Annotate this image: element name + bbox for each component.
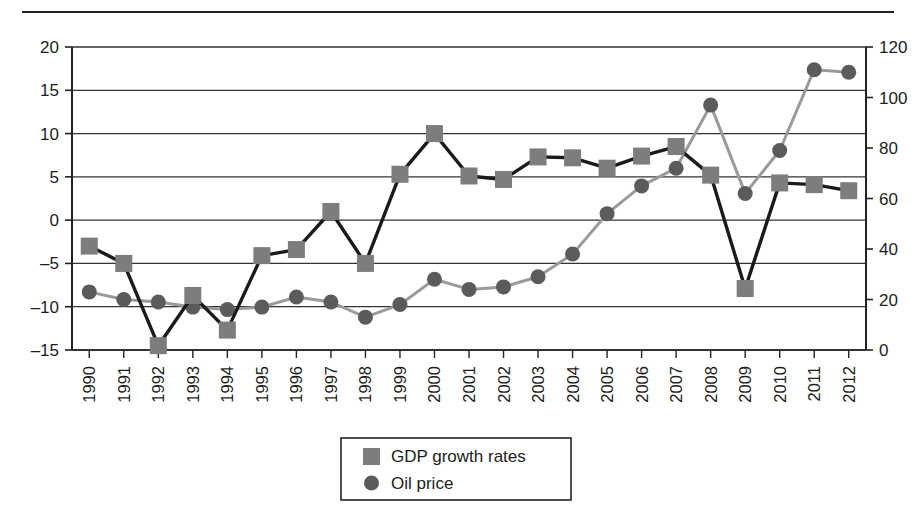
data-point-marker (391, 166, 408, 183)
data-point-marker (772, 143, 787, 158)
chart-legend: GDP growth ratesOil price (341, 438, 571, 500)
legend-marker-oil-price (364, 476, 379, 491)
data-point-marker (564, 149, 581, 166)
data-point-marker (253, 247, 270, 264)
data-point-marker (703, 98, 718, 113)
data-point-marker (807, 62, 822, 77)
data-point-marker (771, 174, 788, 191)
x-axis-tick-label: 2002 (495, 366, 513, 403)
data-point-marker (116, 292, 131, 307)
data-point-marker (219, 322, 236, 339)
x-axis-tick-label: 1996 (287, 366, 305, 403)
data-point-marker (288, 241, 305, 258)
x-axis-tick-label: 2011 (805, 366, 823, 401)
x-axis-tick-label: 1998 (356, 366, 374, 403)
x-axis-tick-label: 2008 (702, 366, 720, 403)
legend-label: Oil price (391, 474, 453, 493)
data-point-marker (358, 310, 373, 325)
x-axis-tick-label: 1999 (391, 366, 409, 403)
data-point-marker (496, 279, 511, 294)
data-point-marker (426, 125, 443, 142)
data-point-marker (392, 297, 407, 312)
figure-container: –15–10–505101520 020406080100120 1990199… (0, 0, 918, 513)
right-axis-tick-label: 40 (879, 240, 898, 259)
left-axis: –15–10–505101520 (31, 38, 72, 360)
legend-marker-gdp-growth-rates (363, 448, 380, 465)
data-point-marker (738, 186, 753, 201)
data-point-marker (184, 287, 201, 304)
left-axis-tick-label: 0 (50, 211, 59, 230)
data-point-marker (461, 167, 478, 184)
right-axis-tick-label: 0 (879, 341, 888, 360)
x-axis-tick-label: 1997 (322, 366, 340, 403)
data-point-marker (495, 171, 512, 188)
x-axis-tick-label: 2009 (736, 366, 754, 403)
data-point-marker (323, 295, 338, 310)
right-axis-tick-label: 60 (879, 190, 898, 209)
x-axis-tick-label: 2010 (771, 366, 789, 403)
x-axis-tick-label: 2007 (667, 366, 685, 403)
x-axis-tick-label: 1991 (115, 366, 133, 403)
left-axis-tick-label: –15 (31, 341, 59, 360)
legend-label: GDP growth rates (391, 447, 526, 466)
data-point-marker (150, 337, 167, 354)
data-point-marker (841, 65, 856, 80)
series-gdp-growth-rates (81, 125, 857, 354)
data-point-marker (599, 160, 616, 177)
data-point-marker (737, 280, 754, 297)
data-point-marker (254, 300, 269, 315)
data-point-marker (322, 203, 339, 220)
x-axis-tick-label: 2001 (460, 366, 478, 403)
chart-canvas: –15–10–505101520 020406080100120 1990199… (0, 0, 918, 513)
x-axis-tick-label: 1993 (184, 366, 202, 403)
data-point-marker (565, 247, 580, 262)
left-axis-tick-label: –10 (31, 298, 59, 317)
data-point-marker (668, 138, 685, 155)
x-axis-tick-label: 1995 (253, 366, 271, 403)
left-axis-tick-label: 15 (40, 81, 59, 100)
x-axis-tick-label: 2005 (598, 366, 616, 403)
data-point-marker (702, 167, 719, 184)
left-axis-tick-label: 10 (40, 125, 59, 144)
x-axis-tick-label: 1990 (80, 366, 98, 403)
right-axis: 020406080100120 (866, 38, 907, 360)
x-axis-tick-label: 2012 (840, 366, 858, 403)
right-axis-tick-label: 20 (879, 291, 898, 310)
data-point-marker (840, 182, 857, 199)
data-point-marker (806, 176, 823, 193)
right-axis-tick-label: 80 (879, 139, 898, 158)
left-axis-tick-label: 20 (40, 38, 59, 57)
left-axis-tick-label: 5 (50, 168, 59, 187)
data-point-marker (151, 295, 166, 310)
data-point-marker (634, 178, 649, 193)
right-axis-tick-label: 100 (879, 89, 907, 108)
data-point-marker (427, 272, 442, 287)
x-axis-tick-label: 1994 (218, 366, 236, 403)
data-point-marker (82, 284, 97, 299)
data-point-marker (81, 238, 98, 255)
data-point-marker (530, 148, 547, 165)
data-point-marker (531, 269, 546, 284)
data-point-marker (462, 282, 477, 297)
data-point-marker (357, 255, 374, 272)
data-point-marker (289, 289, 304, 304)
x-axis-tick-label: 2006 (633, 366, 651, 403)
x-axis-tick-label: 2003 (529, 366, 547, 403)
x-axis-tick-label: 2004 (564, 366, 582, 403)
data-point-marker (600, 206, 615, 221)
series-line (89, 70, 848, 318)
x-axis: 1990199119921993199419951996199719981999… (72, 350, 866, 403)
x-axis-tick-label: 1992 (149, 366, 167, 403)
data-point-marker (115, 255, 132, 272)
left-axis-tick-label: –5 (40, 254, 59, 273)
data-point-marker (633, 148, 650, 165)
right-axis-tick-label: 120 (879, 38, 907, 57)
data-point-marker (669, 161, 684, 176)
x-axis-tick-label: 2000 (425, 366, 443, 403)
